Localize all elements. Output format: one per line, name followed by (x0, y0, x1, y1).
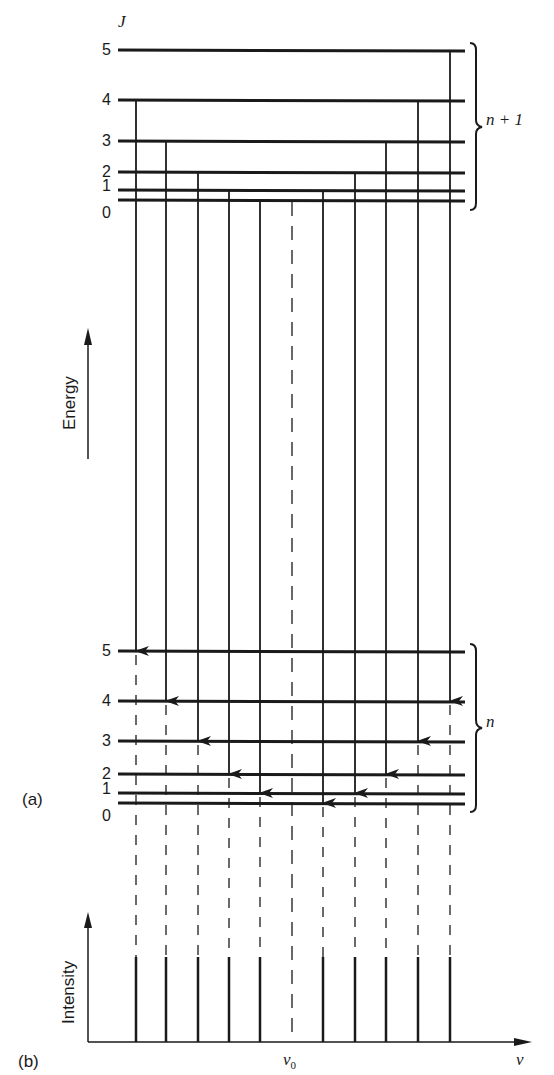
j-axis-label: J (118, 14, 126, 30)
upper-brace-icon (470, 43, 482, 210)
intensity-axis-arrow-icon (84, 912, 92, 928)
intensity-label: Intensity (61, 961, 77, 1024)
spectrum-lines (136, 957, 450, 1042)
nu0-subscript: 0 (291, 1059, 297, 1071)
upper-vibrational-levels (118, 50, 465, 201)
lower-level-J2 (118, 774, 465, 775)
panel-b-label: (b) (18, 1054, 39, 1070)
upper-J-label-1: 1 (102, 178, 111, 194)
upper-level-J0 (118, 200, 465, 201)
frequency-axis-arrow-icon (514, 1038, 532, 1046)
lower-J-label-1: 1 (102, 781, 111, 797)
upper-level-J3 (118, 141, 465, 142)
upper-level-J1 (118, 190, 465, 191)
panel-a-label: (a) (22, 792, 43, 808)
projection-dashes (136, 202, 450, 1042)
upper-J-label-4: 4 (102, 92, 111, 108)
transition-arrows (136, 50, 450, 803)
lower-J-label-5: 5 (102, 643, 111, 659)
nu0-label: ν0 (283, 1052, 296, 1073)
upper-level-J4 (118, 100, 465, 101)
energy-arrowhead-icon (84, 328, 92, 345)
lower-J-label-4: 4 (102, 693, 111, 709)
nu0-symbol: ν (283, 1050, 291, 1069)
lower-brace-icon (470, 644, 482, 812)
upper-J-label-3: 3 (102, 133, 111, 149)
nu-label: ν (516, 1052, 524, 1068)
lower-band-label: n (486, 714, 495, 730)
lower-level-J1 (118, 793, 465, 794)
upper-level-J2 (118, 172, 465, 173)
upper-J-label-0: 0 (102, 205, 111, 221)
energy-label: Energy (62, 376, 78, 430)
lower-J-label-0: 0 (102, 808, 111, 824)
upper-band-label: n + 1 (486, 112, 523, 128)
lower-level-J5 (118, 651, 465, 652)
lower-level-J4 (118, 701, 465, 702)
energy-level-diagram (0, 0, 554, 1075)
lower-J-label-3: 3 (102, 733, 111, 749)
upper-level-J5 (118, 50, 465, 51)
upper-J-label-5: 5 (102, 42, 111, 58)
